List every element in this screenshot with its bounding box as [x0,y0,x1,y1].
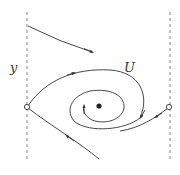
right-saddle-point [166,104,171,109]
incoming-bottom-arrow [67,136,74,141]
right-saddle-outflow-arrow [156,113,162,117]
phase-portrait-diagram: y U [0,0,180,175]
loop-label-U: U [124,60,136,75]
top-trajectory [28,26,92,52]
separatrix-loop-U [28,70,144,129]
incoming-bottom-trajectory [28,108,99,159]
center-point [96,103,101,108]
y-axis-label: y [9,60,18,75]
left-saddle-point [24,104,29,109]
